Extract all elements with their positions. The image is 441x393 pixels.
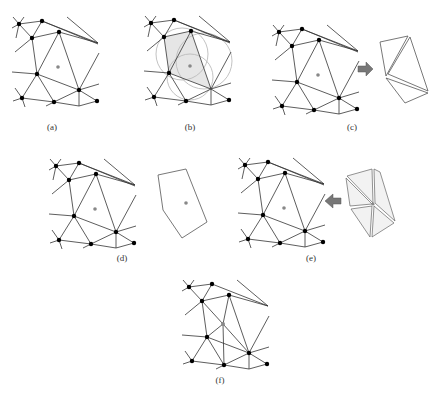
panel-label-f: (f) [216,375,225,385]
inserted-point [221,322,225,326]
panel-label-b: (b) [185,122,196,132]
new-point [316,73,320,77]
panel-c [272,25,359,115]
new-triangle-fan [346,169,395,237]
panel-label-c: (c) [347,122,357,132]
panel-b [144,16,232,106]
panel-f [182,280,269,369]
new-point [282,206,286,210]
panel-e [238,158,325,248]
arrow-left-icon [325,194,341,208]
cavity-polygon [158,169,207,238]
removed-cavity-triangles [380,36,428,103]
panel-a [12,17,99,107]
new-point [93,207,97,211]
new-point [188,64,192,68]
new-point [184,201,188,205]
panel-label-a: (a) [47,122,57,132]
panel-label-d: (d) [117,253,128,263]
arrow-right-icon [358,62,373,76]
delaunay-insertion-figure: (a) (b) (c) (d) [0,0,441,393]
new-point [56,65,60,69]
panel-d [49,159,136,249]
panel-label-e: (e) [306,253,316,263]
